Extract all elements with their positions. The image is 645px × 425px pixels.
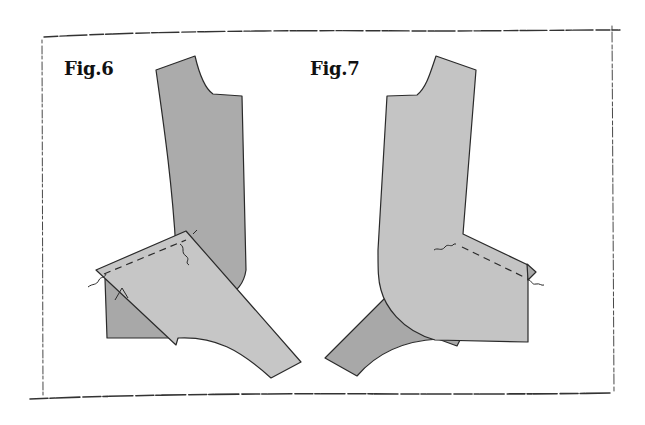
fig7-wave-mark-2 — [527, 279, 544, 285]
fig7-diagram — [325, 56, 544, 376]
fig6-label: Fig.6 — [64, 58, 114, 79]
fig7-label: Fig.7 — [310, 58, 360, 79]
figure-stage: Fig.6 Fig.7 — [0, 0, 645, 425]
frame-border — [30, 26, 620, 399]
fig7-bodice-piece — [378, 56, 528, 342]
fig6-diagram — [88, 56, 301, 378]
